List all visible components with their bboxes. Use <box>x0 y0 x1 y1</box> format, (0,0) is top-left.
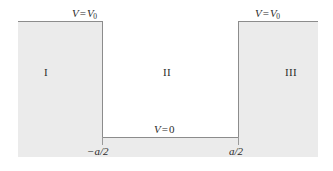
potential-left-wall-segment <box>102 21 103 138</box>
label-v-symbol-right: V <box>255 7 262 19</box>
barrier-region-iii-shading <box>238 21 318 157</box>
tick-mark-negative-a-over-2 <box>102 137 103 145</box>
region-label-ii: II <box>163 67 171 78</box>
barrier-region-i-shading <box>18 21 102 157</box>
label-zero-value: 0 <box>169 123 175 135</box>
potential-well-floor-segment <box>102 137 239 138</box>
label-barrier-left-potential: V=V0 <box>72 8 97 19</box>
axis-label-negative-a-over-2: −a/2 <box>87 146 108 157</box>
well-floor-shading <box>102 137 238 157</box>
label-v0-subscript-right: 0 <box>276 12 280 21</box>
potential-well-figure: V=V0 V=V0 V=0 −a/2 a/2 I II III <box>0 0 333 171</box>
label-well-potential: V=0 <box>154 124 174 135</box>
label-equals-left: = <box>79 7 87 19</box>
label-equals-right: = <box>262 7 270 19</box>
label-equals-well: = <box>161 123 169 135</box>
axis-label-positive-a-over-2: a/2 <box>229 146 243 157</box>
label-v0-subscript-left: 0 <box>93 12 97 21</box>
tick-mark-positive-a-over-2 <box>238 137 239 145</box>
label-v-symbol-well: V <box>154 123 161 135</box>
potential-right-wall-segment <box>238 21 239 138</box>
label-barrier-right-potential: V=V0 <box>255 8 280 19</box>
region-label-iii: III <box>285 67 297 78</box>
potential-top-left-segment <box>18 21 103 22</box>
label-v-symbol-left: V <box>72 7 79 19</box>
region-label-i: I <box>44 67 48 78</box>
potential-top-right-segment <box>238 21 318 22</box>
